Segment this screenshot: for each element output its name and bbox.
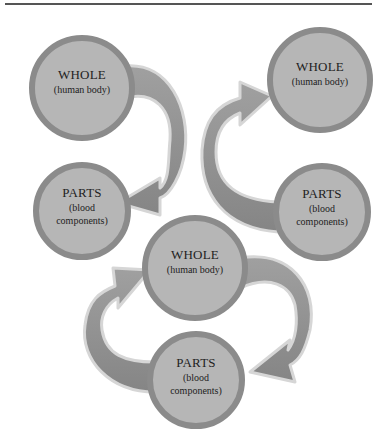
parts-subtitle-2: components) xyxy=(146,384,246,397)
whole-subtitle: (human body) xyxy=(32,83,132,96)
arrow-cycle-right-icon xyxy=(240,257,311,382)
parts-title: PARTS xyxy=(32,185,132,201)
whole-title: WHOLE xyxy=(32,67,132,83)
top-left-whole-label: WHOLE (human body) xyxy=(32,67,132,96)
parts-subtitle-1: (blood xyxy=(32,201,132,214)
arrow-parts-to-whole-icon xyxy=(202,82,278,232)
whole-subtitle: (human body) xyxy=(270,75,370,88)
parts-title: PARTS xyxy=(146,355,246,371)
parts-subtitle-1: (blood xyxy=(146,371,246,384)
top-left-parts-label: PARTS (blood components) xyxy=(32,185,132,227)
whole-subtitle: (human body) xyxy=(145,263,245,276)
arrow-cycle-left-icon xyxy=(84,268,155,392)
whole-title: WHOLE xyxy=(270,59,370,75)
top-right-parts-label: PARTS (blood components) xyxy=(272,186,372,228)
parts-subtitle-2: components) xyxy=(272,215,372,228)
parts-title: PARTS xyxy=(272,186,372,202)
bottom-parts-label: PARTS (blood components) xyxy=(146,355,246,397)
whole-title: WHOLE xyxy=(145,247,245,263)
top-right-whole-label: WHOLE (human body) xyxy=(270,59,370,88)
parts-subtitle-1: (blood xyxy=(272,202,372,215)
parts-subtitle-2: components) xyxy=(32,214,132,227)
bottom-whole-label: WHOLE (human body) xyxy=(145,247,245,276)
